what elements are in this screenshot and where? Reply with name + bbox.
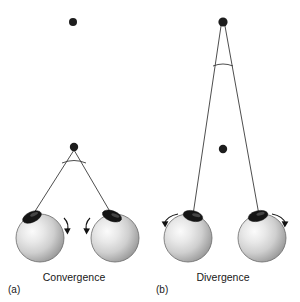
near-target-dot [219,145,227,153]
near-fixation-dot [70,143,78,151]
far-target-dot [69,18,77,26]
left-eyeball [164,214,212,262]
panel-b-caption: Divergence [196,271,249,283]
panel-a-caption: Convergence [43,271,106,283]
panel-b-id: (b) [156,284,168,295]
panel-a-id: (a) [8,284,20,295]
far-fixation-dot [218,17,227,26]
convergence-divergence-figure: Convergence (a) [0,0,300,302]
right-eyeball [238,214,286,262]
